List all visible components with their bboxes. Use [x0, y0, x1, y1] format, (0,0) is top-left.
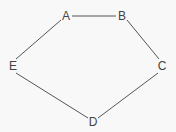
nodes: A B C D E: [9, 9, 167, 129]
edge-c-d: [98, 73, 158, 118]
edge-e-a: [16, 20, 61, 59]
edge-b-c: [127, 20, 159, 59]
edge-d-e: [16, 73, 88, 118]
node-b-label: B: [118, 9, 126, 23]
node-c-label: C: [158, 59, 167, 73]
edges: [16, 16, 159, 118]
node-e-label: E: [9, 59, 17, 73]
node-d-label: D: [89, 115, 98, 129]
node-a-label: A: [62, 9, 70, 23]
graph-diagram: A B C D E: [0, 0, 176, 132]
